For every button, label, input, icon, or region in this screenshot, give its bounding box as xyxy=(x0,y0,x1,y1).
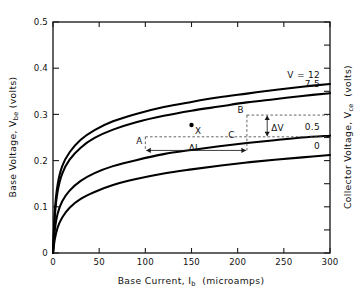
delta-i-arrowhead-right xyxy=(241,148,246,153)
annot-label-point-c: C xyxy=(228,130,234,140)
data-curves xyxy=(53,84,330,253)
y-axis-title-sub: be xyxy=(12,111,20,120)
x-tick-label-2: 100 xyxy=(137,257,154,267)
transistor-characteristic-chart: XABCΔVΔI 050100150200250300 00.10.20.30.… xyxy=(0,0,361,295)
y-axis-title-main: Base Voltage, V xyxy=(7,120,18,197)
x-axis-title-tail: (microamps) xyxy=(202,275,264,286)
x-tick-label-4: 200 xyxy=(229,257,246,267)
annot-label-point-x: X xyxy=(195,126,201,136)
y-axis-title: Base Voltage, Vbe (volts) xyxy=(7,77,20,198)
annot-label-point-a: A xyxy=(136,136,142,146)
x-tick-label-6: 300 xyxy=(321,257,338,267)
y2-axis-title: Collector Voltage, Vce (volts) xyxy=(342,65,355,209)
y2-axis-title-sub: ce xyxy=(347,103,355,111)
x-axis-tick-labels: 050100150200250300 xyxy=(50,257,338,267)
delta-v-arrowhead-down xyxy=(265,132,270,137)
delta-i-arrowhead-left xyxy=(146,148,151,153)
annot-label-point-b: B xyxy=(237,105,243,115)
y2-axis-title-tail: (volts) xyxy=(342,65,353,97)
chart-page: XABCΔVΔI 050100150200250300 00.10.20.30.… xyxy=(0,0,361,295)
curve-label-3: 0 xyxy=(314,141,320,151)
annot-label-delta-v: ΔV xyxy=(271,123,283,133)
y-tick-label-3: 0.3 xyxy=(34,110,48,120)
delta-v-arrowhead-up xyxy=(265,116,270,121)
curve-label-1: 7.5 xyxy=(305,79,320,89)
y2-axis-ticks xyxy=(324,22,330,253)
y-tick-label-1: 0.1 xyxy=(34,202,48,212)
annot-label-delta-i: ΔI xyxy=(189,143,198,153)
x-tick-label-3: 150 xyxy=(183,257,200,267)
y-axis-tick-labels: 00.10.20.30.40.5 xyxy=(34,17,48,258)
y2-axis-title-main: Collector Voltage, V xyxy=(342,111,353,209)
curve-v-0-5 xyxy=(53,136,330,253)
y-tick-label-4: 0.4 xyxy=(34,63,48,73)
x-tick-label-0: 0 xyxy=(50,257,56,267)
x-axis-title-main: Base Current, I xyxy=(118,275,192,286)
y-tick-label-2: 0.2 xyxy=(34,156,48,166)
point-x-marker xyxy=(189,123,193,127)
curve-label-2: 0.5 xyxy=(305,122,320,132)
x-tick-label-1: 50 xyxy=(93,257,104,267)
y-axis-title-tail: (volts) xyxy=(7,77,18,109)
curve-v-0 xyxy=(53,155,330,253)
y-tick-label-0: 0 xyxy=(42,248,48,258)
y-tick-label-5: 0.5 xyxy=(34,17,48,27)
x-axis-title: Base Current, Ib (microamps) xyxy=(118,275,265,288)
x-tick-label-5: 250 xyxy=(275,257,292,267)
